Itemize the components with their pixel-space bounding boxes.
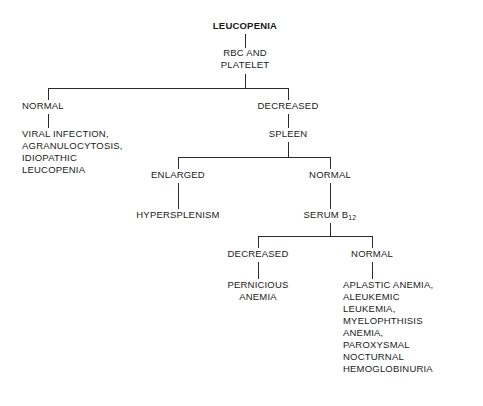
- connector-normal-to-serum: [330, 183, 331, 209]
- connector-root-to-rbc: [245, 34, 246, 48]
- node-serum-b12: SERUM B12: [304, 209, 357, 222]
- node-b12-normal: NORMAL: [351, 248, 393, 260]
- split-bar-serum: [258, 236, 373, 237]
- connector-split1-right: [288, 88, 289, 100]
- node-hypersplenism: HYPERSPLENISM: [136, 209, 219, 221]
- node-rbc-and-platelet: RBC AND PLATELET: [221, 47, 269, 71]
- node-rbc-normal: NORMAL: [22, 100, 64, 112]
- node-spleen-enlarged: ENLARGED: [151, 169, 205, 181]
- connector-split3-left: [258, 236, 259, 248]
- node-spleen-normal: NORMAL: [309, 169, 351, 181]
- connector-rbc-to-split1: [245, 74, 246, 88]
- connector-split3-right: [372, 236, 373, 248]
- node-rbc-decreased: DECREASED: [258, 100, 319, 112]
- connector-enlarged-to-hypersplenism: [178, 183, 179, 209]
- node-pernicious-anemia: PERNICIOUS ANEMIA: [227, 279, 288, 303]
- split-bar-rbc: [48, 88, 289, 89]
- connector-serum-to-split3: [330, 223, 331, 236]
- split-bar-spleen: [178, 157, 331, 158]
- node-spleen: SPLEEN: [269, 128, 308, 140]
- connector-b12-decreased-to-pernicious: [258, 262, 259, 279]
- connector-normal-to-viral: [48, 114, 49, 128]
- flowchart-canvas: LEUCOPENIA RBC AND PLATELET NORMAL VIRAL…: [0, 0, 483, 406]
- node-aplastic-anemia-list: APLASTIC ANEMIA, ALEUKEMIC LEUKEMIA, MYE…: [343, 279, 433, 375]
- serum-b12-prefix: SERUM B: [304, 209, 349, 220]
- serum-b12-subscript: 12: [348, 214, 356, 221]
- node-leucopenia: LEUCOPENIA: [213, 20, 277, 32]
- node-b12-decreased: DECREASED: [228, 248, 289, 260]
- connector-b12-normal-to-aplastic: [372, 262, 373, 279]
- connector-spleen-to-split2: [288, 142, 289, 157]
- connector-split1-left: [48, 88, 49, 100]
- node-viral-infection-list: VIRAL INFECTION, AGRANULOCYTOSIS, IDIOPA…: [22, 128, 123, 176]
- connector-split2-left: [178, 157, 179, 169]
- connector-split2-right: [330, 157, 331, 169]
- connector-decreased-to-spleen: [288, 114, 289, 128]
